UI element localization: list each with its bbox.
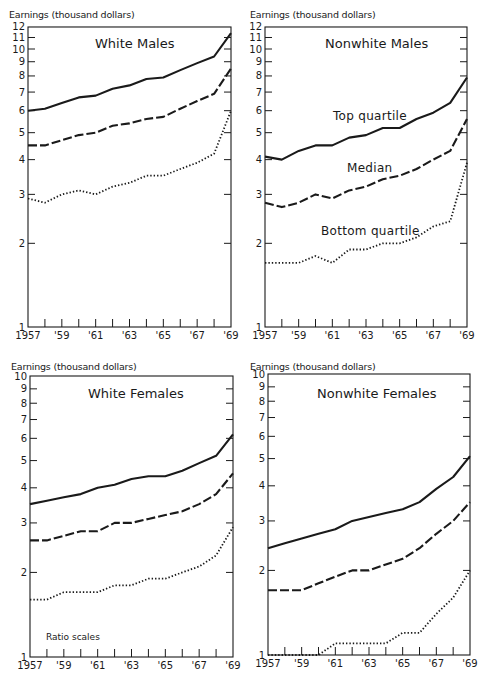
series-bottom-quartile: [268, 570, 470, 655]
y-tick-label: 2: [259, 565, 265, 576]
y-tick-label: 5: [259, 453, 265, 464]
plot-frame: [268, 374, 470, 655]
y-tick-label: 10: [252, 369, 265, 380]
x-tick-label: 1957: [255, 658, 280, 669]
y-tick-label: 7: [259, 412, 265, 423]
x-tick-label: '65: [395, 658, 410, 669]
y-tick-label: 4: [259, 480, 265, 491]
series-top-quartile: [268, 456, 470, 548]
chart-nonwhite-females: 123456789101957'59'61'63'65'67'69: [0, 0, 487, 679]
x-tick-label: '61: [328, 658, 343, 669]
y-tick-label: 3: [259, 515, 265, 526]
x-tick-label: '63: [361, 658, 376, 669]
panel-title: Nonwhite Females: [317, 386, 436, 401]
x-tick-label: '67: [429, 658, 444, 669]
panel-nonwhite-females: Earnings (thousand dollars) 123456789101…: [0, 0, 487, 679]
y-tick-label: 9: [259, 381, 265, 392]
y-tick-label: 6: [259, 431, 265, 442]
series-median: [268, 502, 470, 590]
x-tick-label: '59: [294, 658, 309, 669]
y-tick-label: 8: [259, 396, 265, 407]
x-tick-label: '69: [462, 658, 477, 669]
